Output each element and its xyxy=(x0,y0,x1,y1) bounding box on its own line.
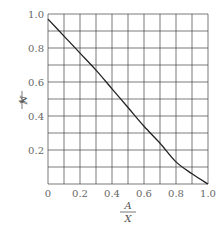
x-label-numerator: A xyxy=(123,200,131,211)
x-label-denominator: X xyxy=(123,213,132,224)
x-tick-label: 0.4 xyxy=(104,188,120,199)
y-axis-label: N k xyxy=(17,91,29,109)
x-tick-label: 0.8 xyxy=(168,188,184,199)
y-tick-label: 0.4 xyxy=(28,111,44,122)
y-tick-label: 1.0 xyxy=(28,9,44,20)
chart: 00.20.40.60.81.0 0.20.40.60.81.0 N k A X xyxy=(0,0,222,226)
y-tick-label: 0.6 xyxy=(28,77,44,88)
grid-lines xyxy=(48,14,208,184)
x-tick-label: 0.6 xyxy=(136,188,152,199)
x-tick-label: 0 xyxy=(45,188,51,199)
y-axis-ticks: 0.20.40.60.81.0 xyxy=(28,9,44,156)
y-tick-label: 0.2 xyxy=(28,145,44,156)
y-label-denominator: k xyxy=(17,97,28,103)
x-tick-label: 1.0 xyxy=(200,188,216,199)
y-tick-label: 0.8 xyxy=(28,43,44,54)
x-axis-ticks: 00.20.40.60.81.0 xyxy=(45,188,216,199)
x-axis-label: A X xyxy=(120,200,136,224)
x-tick-label: 0.2 xyxy=(72,188,88,199)
